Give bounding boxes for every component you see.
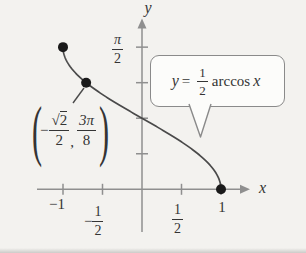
point-frac2-denominator: 8 xyxy=(83,131,91,148)
pi-over-2-numerator: π xyxy=(112,33,123,50)
page-edge-shadow xyxy=(0,248,306,253)
radicand: 2 xyxy=(60,111,68,128)
sqrt-sign: √ xyxy=(51,112,59,128)
callout-lhs: y xyxy=(172,72,179,90)
callout-function-name: arccos xyxy=(212,73,250,90)
x-tick-label-1-2: 1 2 xyxy=(172,201,183,236)
close-paren: ) xyxy=(99,96,109,164)
data-point xyxy=(216,184,226,194)
callout-variable: x xyxy=(253,72,260,90)
y-axis-arrowhead-icon xyxy=(138,19,147,29)
x-tick-label-neg-1: −1 xyxy=(47,197,67,212)
x-axis-arrowhead-icon xyxy=(240,185,250,194)
point-frac1-denominator: 2 xyxy=(56,131,64,148)
data-point xyxy=(58,42,68,52)
neg-1-2-denominator: 2 xyxy=(94,222,101,238)
point-coordinates-label: ( − √2 2 , 3π 8 ) xyxy=(30,100,111,160)
callout-frac-denominator: 2 xyxy=(199,82,206,97)
callout-tail xyxy=(180,100,216,144)
x-axis-label: x xyxy=(255,180,270,196)
callout-equals: = xyxy=(182,73,190,90)
pi-over-2-denominator: 2 xyxy=(114,50,121,66)
data-point xyxy=(81,78,91,88)
1-2-denominator: 2 xyxy=(174,220,181,236)
callout-frac-numerator: 1 xyxy=(197,66,208,82)
x-tick-label-neg-1-2: − 1 2 xyxy=(84,205,103,238)
x-tick-label-1: 1 xyxy=(215,200,229,215)
callout-tail-shape xyxy=(189,104,211,137)
point-comma: , xyxy=(70,135,74,150)
figure: y x π 2 −1 − 1 2 1 2 1 ( − √2 2 , 3π xyxy=(0,0,306,253)
open-paren: ( xyxy=(32,96,42,164)
sqrt-2-numerator: √2 xyxy=(49,113,69,131)
1-2-numerator: 1 xyxy=(172,203,183,220)
neg-1-2-sign: − xyxy=(84,214,92,229)
y-axis-label: y xyxy=(141,0,155,16)
point-frac2-numerator: 3π xyxy=(77,113,96,131)
equation-callout: y = 1 2 arccos x xyxy=(150,55,285,107)
neg-1-2-numerator: 1 xyxy=(92,205,103,222)
y-tick-label-pi-over-2: π 2 xyxy=(112,31,123,66)
